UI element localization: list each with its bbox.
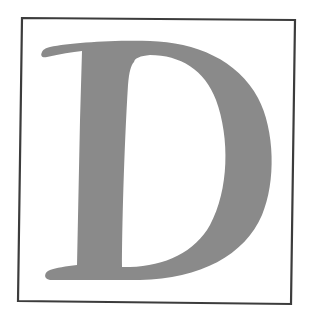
initial-letter-figure: D [0,0,318,328]
letter-d-graphic [0,0,318,328]
